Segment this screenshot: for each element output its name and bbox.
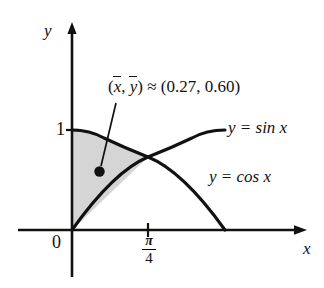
- x-axis-label: x: [303, 240, 311, 257]
- centroid-xbar: x: [114, 78, 122, 95]
- centroid-annotation: (x, y) ≈ (0.27, 0.60): [108, 78, 240, 95]
- centroid-point-marker: [94, 166, 104, 176]
- centroid-value: (0.27, 0.60): [161, 77, 240, 96]
- centroid-ybar: y: [130, 78, 138, 95]
- y-tick-label-1: 1: [56, 120, 65, 138]
- curve-label-cos: y = cos x: [209, 168, 271, 185]
- centroid-comma: ,: [121, 77, 130, 96]
- centroid-figure: y x 1 0 π 4 y = sin x y = cos x (x, y) ≈…: [0, 0, 324, 288]
- approx-sign: ≈: [147, 77, 156, 96]
- centroid-paren-close: ): [137, 77, 143, 96]
- pi-over-4-denominator: 4: [139, 250, 159, 266]
- y-axis-label: y: [44, 22, 52, 39]
- plot-canvas: [0, 0, 324, 288]
- origin-label: 0: [52, 233, 61, 251]
- x-axis-arrow-icon: [294, 225, 307, 235]
- x-tick-label-pi-over-4: π 4: [139, 234, 159, 266]
- y-axis-arrow-icon: [67, 22, 76, 34]
- pi-over-4-numerator: π: [139, 234, 159, 249]
- curve-label-sin: y = sin x: [228, 119, 287, 136]
